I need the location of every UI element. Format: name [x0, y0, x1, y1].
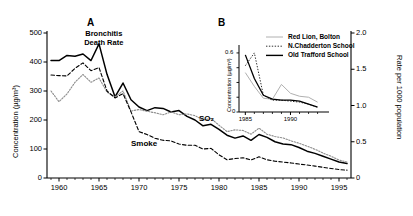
panel-a-ytick-right-label-1: 0.5: [356, 137, 366, 146]
figure-root: 010020030040050000.51.01.52.019601965197…: [0, 0, 413, 216]
panel-a-ytick-label-400: 400: [0, 57, 42, 66]
panel-a-ytick-label-0: 0: [0, 173, 42, 182]
panel-b-series-0: [245, 73, 317, 103]
panel-a-ytick-label-100: 100: [0, 144, 42, 153]
panel-b-ytick-label-06: 0.6: [225, 49, 233, 55]
panel-a-series-0: [51, 44, 347, 164]
panel-a-ylabel: Concentration (µg/m³): [11, 85, 20, 158]
panel-a-letter: A: [87, 17, 94, 28]
panel-b-series-2: [245, 55, 317, 107]
panel-a-ytick-label-200: 200: [0, 115, 42, 124]
legend-label-1: N.Chadderton School: [288, 42, 354, 49]
panel-b-ylabel: Concentration (µg/m³): [226, 58, 232, 112]
panel-a-ytick-label-500: 500: [0, 28, 42, 37]
annotation-so2: SO₂: [199, 114, 214, 123]
panel-b-xtick-label-1985: 1985: [234, 116, 256, 122]
legend-label-2: Old Trafford School: [288, 51, 349, 58]
panel-b-legend: [266, 37, 283, 55]
panel-a-ytick-right-label-0: 0: [356, 173, 360, 182]
panel-a-ylabel-right: Rate per 1000 population: [395, 55, 404, 139]
panel-a-xtick-label-1960: 1960: [46, 183, 72, 192]
annotation-line-2: Death Rate: [84, 38, 123, 47]
panel-a-ytick-label-300: 300: [0, 86, 42, 95]
panel-a-xtick-label-1965: 1965: [86, 183, 112, 192]
panel-a-ytick-right-label-2: 1.0: [356, 101, 366, 110]
panel-a-xtick-label-1975: 1975: [166, 183, 192, 192]
panel-b-ytick-label-0: 0: [232, 108, 235, 114]
legend-label-0: Red Lion, Bolton: [288, 33, 340, 40]
panel-b-letter: B: [218, 17, 225, 28]
annotation-bronchitis-death-rate: BronchitisDeath Rate: [68, 30, 140, 47]
panel-a-xtick-label-1990: 1990: [286, 183, 312, 192]
panel-b-xtick-label-1990: 1990: [279, 116, 301, 122]
annotation-smoke: Smoke: [131, 139, 157, 148]
panel-b-series-1: [245, 53, 317, 107]
panel-a-xtick-label-1970: 1970: [126, 183, 152, 192]
panel-a-xtick-label-1995: 1995: [326, 183, 352, 192]
panel-a-xtick-label-1985: 1985: [246, 183, 272, 192]
panel-a-ytick-right-label-3: 1.5: [356, 64, 366, 73]
panel-a-ytick-right-label-4: 2.0: [356, 28, 366, 37]
panel-a-xtick-label-1980: 1980: [206, 183, 232, 192]
